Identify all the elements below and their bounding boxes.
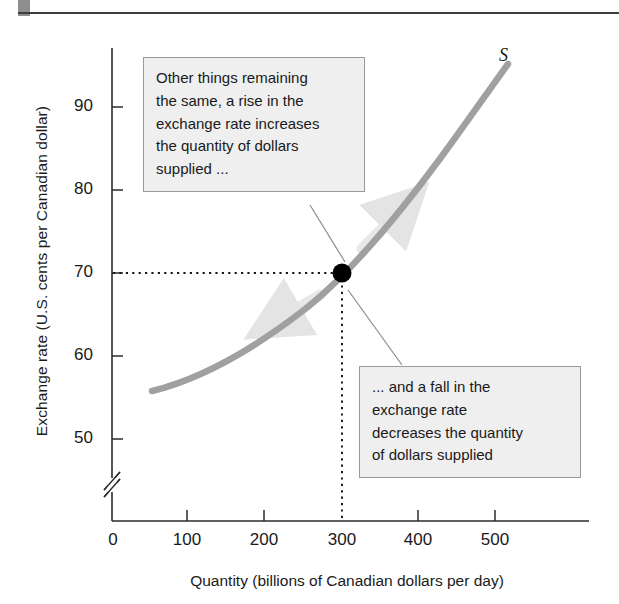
- y-tick-label-50: 50: [53, 428, 93, 448]
- callout-fall-line-2: exchange rate: [372, 399, 569, 422]
- callout-rise-line-5: supplied ...: [156, 158, 353, 181]
- x-tick-marks: [187, 510, 495, 521]
- supply-curve-label: S: [499, 45, 508, 66]
- callout-rise-line-1: Other things remaining: [156, 67, 353, 90]
- leader-line-rise: [310, 205, 345, 262]
- x-tick-label-0: 0: [88, 530, 138, 550]
- leader-line-fall: [348, 290, 402, 365]
- figure-container: 90 80 70 60 50 0 100 200 300 400 500 Exc…: [0, 0, 619, 604]
- x-tick-label-500: 500: [470, 530, 520, 550]
- callout-rise-line-2: the same, a rise in the: [156, 90, 353, 113]
- y-tick-label-70: 70: [53, 262, 93, 282]
- x-tick-label-300: 300: [317, 530, 367, 550]
- y-tick-label-60: 60: [53, 345, 93, 365]
- y-axis-title: Exchange rate (U.S. cents per Canadian d…: [33, 61, 51, 481]
- x-tick-label-200: 200: [239, 530, 289, 550]
- callout-rise-line-3: exchange rate increases: [156, 113, 353, 136]
- callout-fall-line-3: decreases the quantity: [372, 422, 569, 445]
- callout-fall: ... and a fall in the exchange rate decr…: [359, 366, 581, 478]
- equilibrium-point: [333, 264, 352, 283]
- callout-rise-line-4: the quantity of dollars: [156, 135, 353, 158]
- x-axis-title: Quantity (billions of Canadian dollars p…: [112, 572, 582, 590]
- callout-fall-line-1: ... and a fall in the: [372, 376, 569, 399]
- callout-fall-line-4: of dollars supplied: [372, 444, 569, 467]
- y-tick-label-80: 80: [53, 179, 93, 199]
- callout-rise: Other things remaining the same, a rise …: [143, 57, 365, 192]
- y-tick-label-90: 90: [53, 96, 93, 116]
- x-tick-label-100: 100: [162, 530, 212, 550]
- x-tick-label-400: 400: [393, 530, 443, 550]
